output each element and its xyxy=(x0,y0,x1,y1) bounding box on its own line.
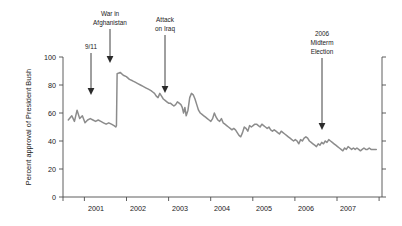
x-tick-label-2001: 2001 xyxy=(88,204,104,213)
annotation-war-in-afghanistan-label-line1: War in xyxy=(101,10,120,17)
x-tick-label-2005: 2005 xyxy=(256,204,272,213)
annotation-9-11-label: 9/11 xyxy=(85,43,97,50)
x-tick-label-2007: 2007 xyxy=(340,204,356,213)
y-tick-label-20: 20 xyxy=(48,165,56,174)
annotation-attack-on-iraq-label-line2: on Iraq xyxy=(155,25,175,33)
annotation-attack-on-iraq-label-line1: Attack xyxy=(156,16,175,23)
y-tick-label-0: 0 xyxy=(52,193,56,202)
y-tick-label-40: 40 xyxy=(48,137,56,146)
y-tick-label-60: 60 xyxy=(48,109,56,118)
annotation-war-in-afghanistan-label-line2: Afghanistan xyxy=(93,19,127,27)
annotation-2006-midterm-election-label-line3: Election xyxy=(311,48,334,55)
annotation-2006-midterm-election-label-line1: 2006 xyxy=(315,30,330,37)
y-axis-title: Percent approval of President Bush xyxy=(24,69,33,185)
x-tick-label-2002: 2002 xyxy=(130,204,146,213)
approval-rating-chart: Percent approval of President Bush 100 8… xyxy=(0,0,402,226)
y-tick-label-100: 100 xyxy=(44,53,56,62)
x-tick-label-2003: 2003 xyxy=(172,204,188,213)
annotation-2006-midterm-election-label-line2: Midterm xyxy=(310,39,333,46)
x-tick-label-2004: 2004 xyxy=(214,204,230,213)
y-tick-label-80: 80 xyxy=(48,81,56,90)
x-tick-label-2006: 2006 xyxy=(298,204,314,213)
